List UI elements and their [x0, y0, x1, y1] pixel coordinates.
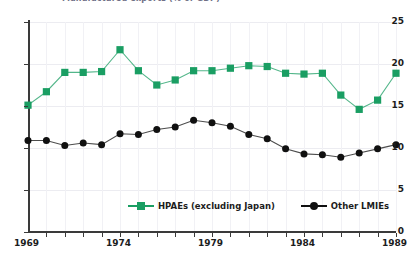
legend-marker-circle-icon — [310, 202, 318, 210]
data-point — [80, 139, 87, 146]
x-axis-tick-label: 1979 — [198, 238, 223, 248]
legend-item-0[interactable]: HPAEs (excluding Japan) — [128, 201, 275, 211]
data-point — [356, 150, 363, 157]
x-tick-mark — [157, 233, 158, 237]
data-point — [282, 70, 289, 77]
data-point — [153, 81, 160, 88]
y-axis-tick-label: 0 — [382, 226, 404, 236]
data-point — [135, 67, 142, 74]
data-point — [374, 97, 381, 104]
data-point — [43, 88, 50, 95]
data-point — [172, 124, 179, 131]
data-point — [80, 69, 87, 76]
y-axis-tick-label: 5 — [382, 184, 404, 194]
x-axis-tick-label: 1984 — [290, 238, 315, 248]
data-point — [190, 117, 197, 124]
x-tick-mark — [267, 233, 268, 237]
data-point — [116, 46, 123, 53]
y-tick-mark — [24, 148, 28, 149]
x-tick-mark — [46, 233, 47, 237]
x-tick-mark — [341, 233, 342, 237]
x-axis-tick-label: 1974 — [106, 238, 131, 248]
data-point — [392, 70, 399, 77]
data-point — [208, 67, 215, 74]
data-point — [98, 141, 105, 148]
y-axis-tick-label: 10 — [382, 142, 404, 152]
x-axis-tick-label: 1989 — [382, 238, 407, 248]
x-tick-mark — [249, 233, 250, 237]
data-point — [264, 135, 271, 142]
data-point — [319, 70, 326, 77]
y-axis-tick-label: 25 — [382, 16, 404, 26]
data-point — [117, 130, 124, 137]
x-tick-mark — [378, 233, 379, 237]
y-tick-mark — [24, 232, 28, 233]
x-tick-mark — [230, 233, 231, 237]
data-point — [227, 65, 234, 72]
x-tick-mark — [120, 233, 121, 237]
legend-marker-square-icon — [137, 202, 145, 210]
x-tick-mark — [65, 233, 66, 237]
legend-line-1 — [301, 205, 327, 207]
x-tick-mark — [212, 233, 213, 237]
data-point — [25, 137, 32, 144]
y-tick-mark — [24, 22, 28, 23]
data-point — [301, 150, 308, 157]
data-point — [300, 70, 307, 77]
x-tick-mark — [138, 233, 139, 237]
y-axis-tick-label: 15 — [382, 100, 404, 110]
data-point — [190, 67, 197, 74]
data-point — [264, 63, 271, 70]
legend-label: Other LMIEs — [331, 201, 389, 211]
data-point — [172, 76, 179, 83]
x-tick-mark — [83, 233, 84, 237]
data-point — [319, 151, 326, 158]
x-axis-tick-label: 1969 — [14, 238, 39, 248]
data-point — [209, 119, 216, 126]
y-tick-mark — [24, 190, 28, 191]
x-tick-mark — [359, 233, 360, 237]
legend-label: HPAEs (excluding Japan) — [158, 201, 275, 211]
data-point — [245, 62, 252, 69]
data-point — [374, 145, 381, 152]
data-point — [61, 69, 68, 76]
legend-item-1[interactable]: Other LMIEs — [301, 201, 389, 211]
series-line-0 — [28, 50, 396, 110]
x-tick-mark — [194, 233, 195, 237]
data-point — [282, 145, 289, 152]
x-tick-mark — [102, 233, 103, 237]
x-tick-mark — [396, 233, 397, 237]
chart-legend: HPAEs (excluding Japan)Other LMIEs — [128, 199, 389, 213]
y-tick-mark — [24, 106, 28, 107]
x-tick-mark — [286, 233, 287, 237]
x-tick-mark — [322, 233, 323, 237]
data-point — [135, 131, 142, 138]
data-point — [245, 131, 252, 138]
legend-line-0 — [128, 205, 154, 207]
data-point — [61, 142, 68, 149]
x-tick-mark — [304, 233, 305, 237]
data-point — [227, 123, 234, 130]
data-point — [337, 91, 344, 98]
y-tick-mark — [24, 64, 28, 65]
data-point — [356, 106, 363, 113]
data-point — [153, 126, 160, 133]
x-tick-mark — [175, 233, 176, 237]
data-point — [43, 137, 50, 144]
data-point — [337, 154, 344, 161]
data-point — [98, 68, 105, 75]
y-axis-tick-label: 20 — [382, 58, 404, 68]
